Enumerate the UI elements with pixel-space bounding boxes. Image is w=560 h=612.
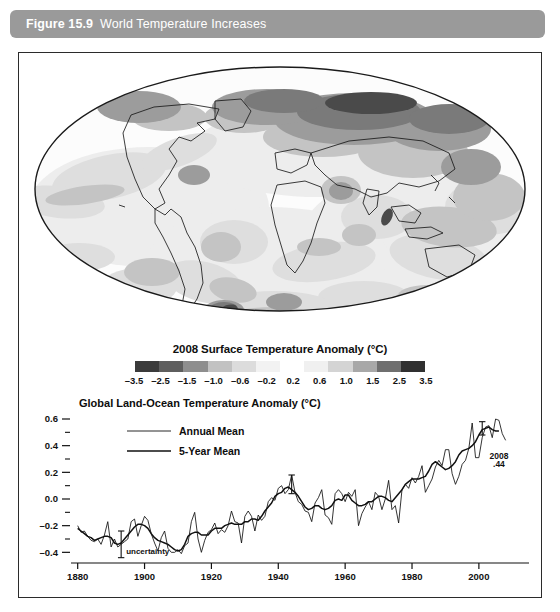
annotation-uncertainty: uncertainty <box>126 547 170 556</box>
colorbar-swatch <box>328 361 352 372</box>
temperature-anomaly-chart: Global Land-Ocean Temperature Anomaly (°… <box>19 393 541 598</box>
colorbar-title: 2008 Surface Temperature Anomaly (°C) <box>19 343 541 355</box>
figure-root: Figure 15.9 World Temperature Increases <box>0 0 560 612</box>
x-tick-label: 2000 <box>468 571 489 582</box>
y-tick-label: 0.2 <box>45 467 58 478</box>
colorbar-swatch <box>159 361 183 372</box>
colorbar-swatch <box>256 361 280 372</box>
colorbar-swatch <box>304 361 328 372</box>
colorbar-swatch <box>232 361 256 372</box>
colorbar-tick: 2.5 <box>387 375 411 386</box>
colorbar-tick-labels: –3.5–2.5–1.5–1.0–0.6–0.20.20.61.01.52.53… <box>122 375 438 386</box>
colorbar-tick: 1.5 <box>361 375 385 386</box>
y-tick-label: 0.6 <box>45 413 58 424</box>
colorbar-tick: 0.6 <box>308 375 332 386</box>
y-tick-label: 0.0 <box>45 493 58 504</box>
y-tick-label: –0.4 <box>40 547 59 558</box>
colorbar-tick: 0.2 <box>281 375 305 386</box>
legend-label-5-year-mean: 5-Year Mean <box>179 445 240 457</box>
annotation-value-2008: .44 <box>493 459 505 469</box>
colorbar-tick: –3.5 <box>122 375 146 386</box>
colorbar-tick: –0.6 <box>228 375 252 386</box>
figure-title-bar: Figure 15.9 World Temperature Increases <box>10 10 545 38</box>
y-tick-label: 0.4 <box>45 440 59 451</box>
colorbar-tick: –1.0 <box>202 375 226 386</box>
colorbar-tick: –1.5 <box>175 375 199 386</box>
colorbar-strip <box>135 361 425 372</box>
x-tick-label: 1960 <box>335 571 356 582</box>
x-tick-label: 1880 <box>67 571 88 582</box>
colorbar-swatch <box>377 361 401 372</box>
x-tick-label: 1940 <box>268 571 289 582</box>
colorbar-swatch <box>208 361 232 372</box>
colorbar-swatch <box>183 361 207 372</box>
legend-label-annual-mean: Annual Mean <box>179 425 244 437</box>
colorbar-swatch <box>401 361 425 372</box>
figure-number: Figure 15.9 <box>26 17 93 31</box>
colorbar-swatch <box>135 361 159 372</box>
map-anomaly-field <box>19 57 541 335</box>
figure-frame: 2008 Surface Temperature Anomaly (°C) –3… <box>18 52 542 598</box>
colorbar-tick: –2.5 <box>149 375 173 386</box>
colorbar-swatch <box>353 361 377 372</box>
x-tick-label: 1920 <box>201 571 222 582</box>
colorbar-tick: 3.5 <box>414 375 438 386</box>
colorbar-block: 2008 Surface Temperature Anomaly (°C) –3… <box>19 343 541 386</box>
x-tick-label: 1900 <box>134 571 155 582</box>
figure-caption: World Temperature Increases <box>100 17 266 31</box>
colorbar-swatch <box>280 361 304 372</box>
chart-title: Global Land-Ocean Temperature Anomaly (°… <box>79 397 321 409</box>
colorbar-tick: 1.0 <box>334 375 358 386</box>
y-tick-label: –0.2 <box>40 520 59 531</box>
colorbar-tick: –0.2 <box>255 375 279 386</box>
x-tick-label: 1980 <box>401 571 422 582</box>
world-map <box>19 57 541 335</box>
